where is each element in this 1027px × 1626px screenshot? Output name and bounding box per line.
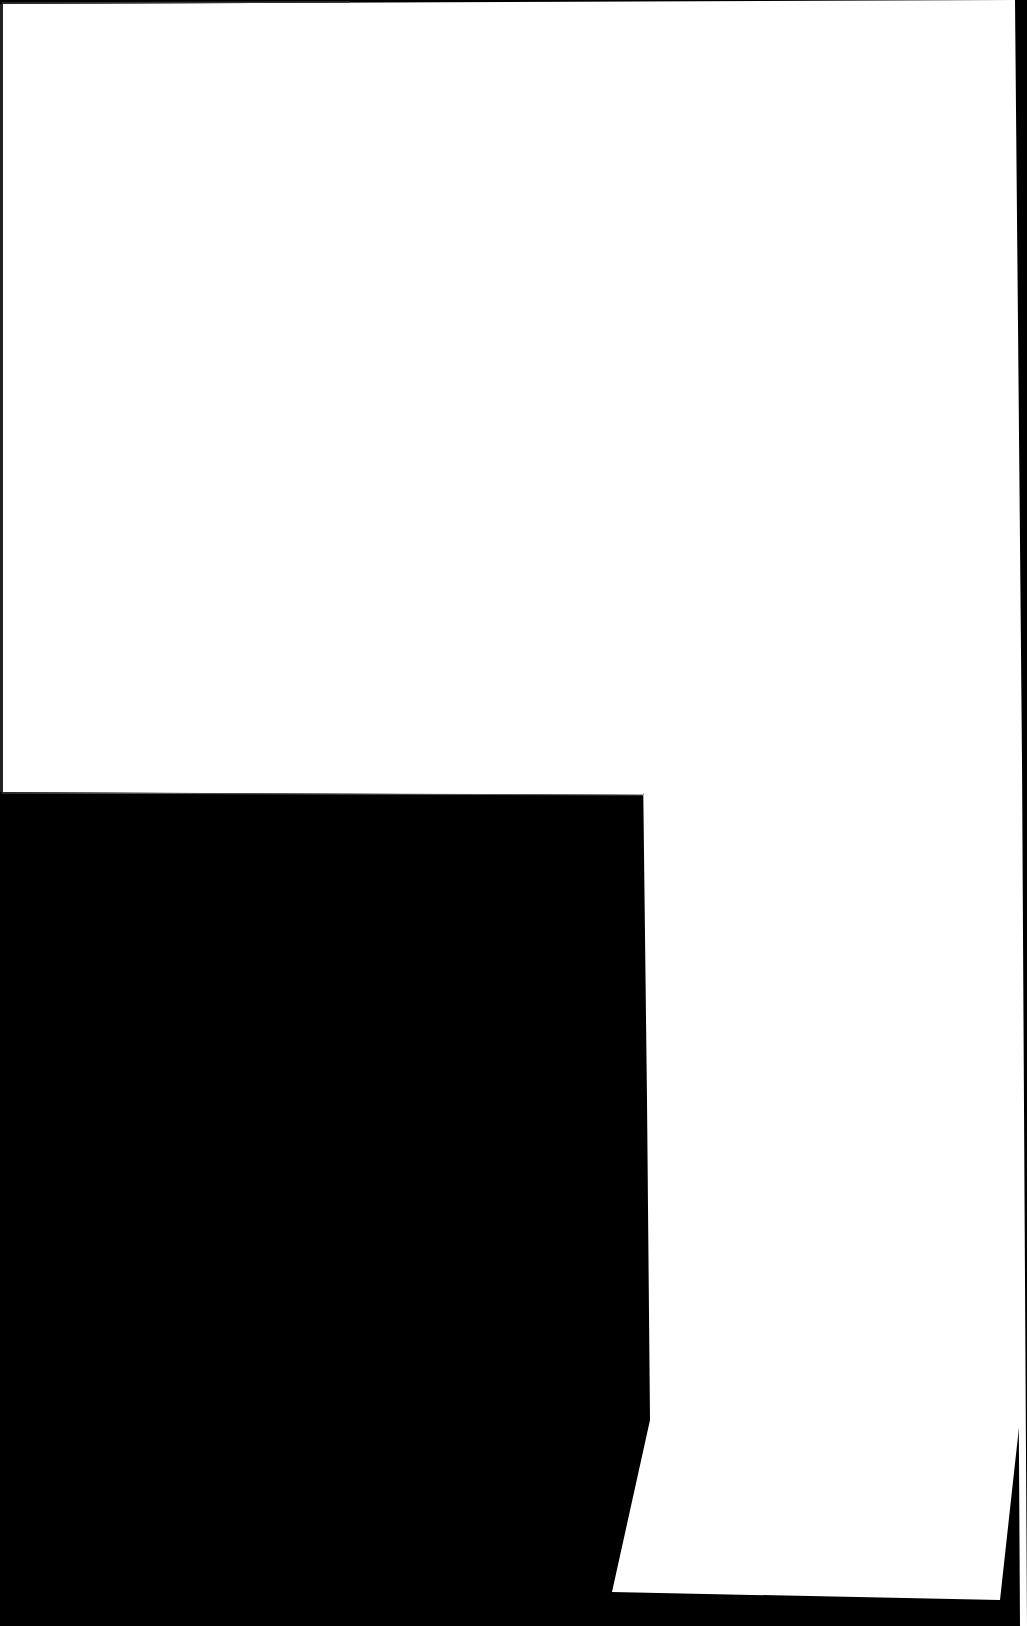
lower-right-sheet bbox=[612, 770, 1022, 1600]
paper-sheets bbox=[0, 0, 1027, 1626]
